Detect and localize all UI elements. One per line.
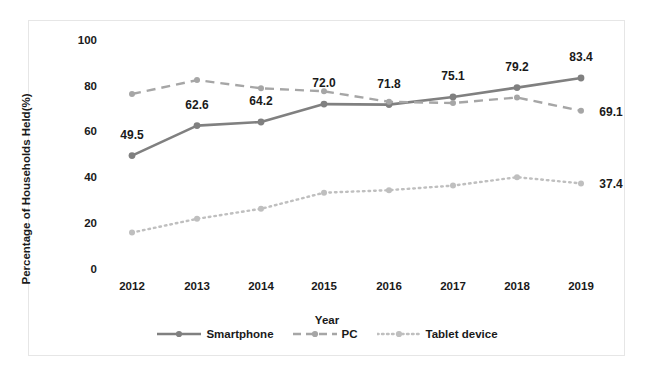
data-point-tablet-device-2018[interactable]	[514, 174, 520, 180]
data-point-tablet-device-2019[interactable]	[578, 180, 584, 186]
legend-label-smartphone: Smartphone	[206, 328, 273, 340]
data-point-pc-2013[interactable]	[194, 77, 200, 83]
x-tick-2014: 2014	[248, 280, 274, 292]
data-point-smartphone-2018[interactable]	[514, 84, 521, 91]
value-label-tablet-device-2019: 37.4	[599, 177, 622, 191]
data-point-pc-2014[interactable]	[258, 85, 264, 91]
data-point-pc-2018[interactable]	[514, 95, 520, 101]
value-label-smartphone-2012: 49.5	[120, 128, 143, 142]
data-point-smartphone-2014[interactable]	[258, 119, 265, 126]
data-point-pc-2016[interactable]	[386, 99, 392, 105]
chart-legend: Smartphone PC Tablet device	[29, 328, 626, 340]
series-line-tablet-device	[132, 177, 581, 232]
legend-item-pc[interactable]: PC	[293, 328, 358, 340]
dashed-line-marker-icon	[293, 328, 337, 340]
plot-area: Percentage of Households Held(%) 100 80 …	[29, 21, 626, 357]
value-label-smartphone-2015: 72.0	[312, 76, 335, 90]
data-point-smartphone-2013[interactable]	[194, 122, 201, 129]
legend-label-tablet-device: Tablet device	[426, 328, 498, 340]
value-label-smartphone-2019: 83.4	[569, 50, 592, 64]
data-point-smartphone-2012[interactable]	[129, 152, 136, 159]
data-point-pc-2019[interactable]	[578, 108, 584, 114]
value-label-pc-2019: 69.1	[599, 105, 622, 119]
data-point-smartphone-2017[interactable]	[450, 94, 457, 101]
data-point-tablet-device-2017[interactable]	[450, 183, 456, 189]
legend-item-tablet-device[interactable]: Tablet device	[377, 328, 498, 340]
chart-figure: Percentage of Households Held(%) 100 80 …	[28, 20, 625, 356]
legend-item-smartphone[interactable]: Smartphone	[157, 328, 273, 340]
series-line-smartphone	[132, 78, 581, 156]
x-axis-title: Year	[315, 314, 339, 326]
value-label-smartphone-2014: 64.2	[249, 94, 272, 108]
x-tick-2013: 2013	[184, 280, 210, 292]
value-label-smartphone-2018: 79.2	[505, 60, 528, 74]
data-point-tablet-device-2014[interactable]	[258, 206, 264, 212]
value-label-smartphone-2016: 71.8	[377, 77, 400, 91]
value-label-smartphone-2013: 62.6	[185, 98, 208, 112]
series-canvas	[29, 21, 626, 357]
x-tick-2016: 2016	[376, 280, 402, 292]
legend-label-pc: PC	[342, 328, 358, 340]
x-tick-2017: 2017	[440, 280, 466, 292]
x-tick-2015: 2015	[311, 280, 337, 292]
x-tick-2018: 2018	[504, 280, 530, 292]
data-point-tablet-device-2015[interactable]	[321, 190, 327, 196]
value-label-smartphone-2017: 75.1	[441, 69, 464, 83]
solid-line-marker-icon	[157, 328, 201, 340]
data-point-tablet-device-2012[interactable]	[129, 230, 135, 236]
data-point-pc-2017[interactable]	[450, 100, 456, 106]
x-tick-2019: 2019	[568, 280, 594, 292]
data-point-smartphone-2019[interactable]	[578, 75, 585, 82]
data-point-tablet-device-2013[interactable]	[194, 216, 200, 222]
data-point-tablet-device-2016[interactable]	[386, 187, 392, 193]
data-point-smartphone-2015[interactable]	[321, 101, 328, 108]
data-point-pc-2012[interactable]	[129, 91, 135, 97]
dotted-line-marker-icon	[377, 328, 421, 340]
x-tick-2012: 2012	[119, 280, 145, 292]
